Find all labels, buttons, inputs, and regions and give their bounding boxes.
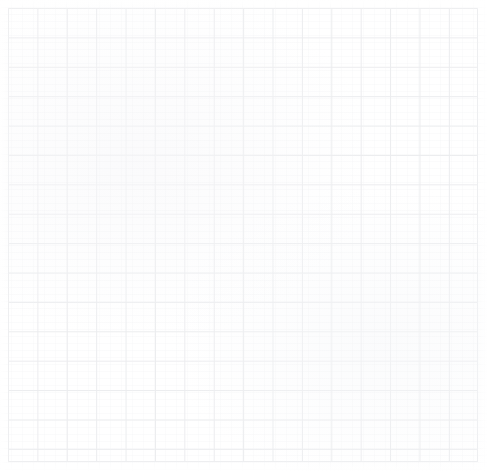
- graph-paper-grid: [8, 8, 478, 462]
- graph-paper-sheet: [0, 0, 488, 472]
